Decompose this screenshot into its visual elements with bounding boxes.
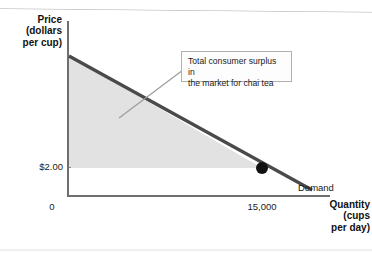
plot-area: Total consumer surplus in the market for… bbox=[0, 0, 372, 255]
x-axis-title: Quantity (cups per day) bbox=[282, 199, 370, 233]
y-axis-line bbox=[67, 21, 69, 197]
x-axis-line bbox=[67, 195, 330, 197]
callout-line-1: Total consumer surplus in bbox=[188, 56, 285, 78]
price-guide-dotted-line bbox=[69, 167, 263, 168]
x-axis-tick-origin: 0 bbox=[43, 201, 61, 212]
chart-figure: Total consumer surplus in the market for… bbox=[0, 0, 372, 255]
y-axis-title: Price (dollars per cup) bbox=[0, 14, 62, 48]
consumer-surplus-callout: Total consumer surplus in the market for… bbox=[181, 51, 292, 82]
y-axis-title-line-2: (dollars bbox=[0, 25, 62, 36]
x-axis-tick-quantity: 15,000 bbox=[232, 201, 292, 212]
y-axis-title-line-1: Price bbox=[0, 14, 62, 25]
x-axis-title-line-1: Quantity bbox=[282, 199, 370, 210]
x-axis-title-line-2: (cups bbox=[282, 210, 370, 221]
callout-line-2: the market for chai tea bbox=[188, 78, 285, 89]
y-axis-tick-price: $2.00 bbox=[8, 161, 63, 172]
y-axis-title-line-3: per cup) bbox=[0, 37, 62, 48]
x-axis-title-line-3: per day) bbox=[282, 222, 370, 233]
equilibrium-point-marker bbox=[256, 162, 268, 174]
demand-curve-label: Demand bbox=[298, 182, 334, 193]
